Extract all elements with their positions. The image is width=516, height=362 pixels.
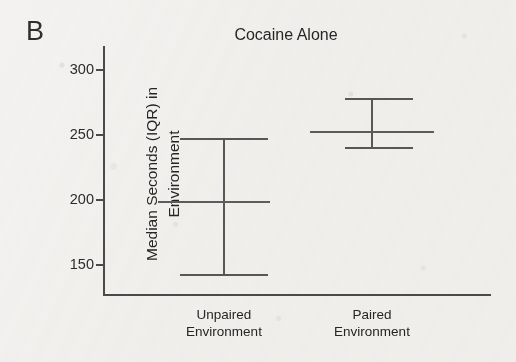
errorbar-lower-cap-paired [345, 147, 413, 149]
plot-area: 300 250 200 150 Unpaired Environment [0, 0, 516, 362]
y-tick-label-150: 150 [36, 256, 94, 272]
y-tick-mark-250 [96, 134, 104, 136]
y-tick-label-250: 250 [36, 126, 94, 142]
x-tick-label-unpaired-line-2: Environment [144, 323, 304, 340]
errorbar-upper-cap-paired [345, 98, 413, 100]
x-tick-label-paired-environment: Paired Environment [292, 306, 452, 340]
x-tick-label-paired-line-1: Paired [292, 306, 452, 323]
y-tick-mark-150 [96, 264, 104, 266]
y-tick-label-300: 300 [36, 61, 94, 77]
x-tick-label-paired-line-2: Environment [292, 323, 452, 340]
errorbar-stem-unpaired [223, 139, 225, 275]
x-tick-label-unpaired-environment: Unpaired Environment [144, 306, 304, 340]
y-axis-line [103, 46, 105, 296]
y-tick-label-200: 200 [36, 191, 94, 207]
x-axis-line [103, 294, 491, 296]
x-tick-label-unpaired-line-1: Unpaired [144, 306, 304, 323]
errorbar-stem-paired [371, 99, 373, 149]
errorbar-lower-cap-unpaired [180, 274, 268, 276]
errorbar-median-unpaired [158, 201, 270, 203]
y-tick-mark-200 [96, 199, 104, 201]
errorbar-median-paired [310, 131, 434, 133]
y-tick-mark-300 [96, 69, 104, 71]
figure-panel-b: B Cocaine Alone Median Seconds (IQR) in … [0, 0, 516, 362]
